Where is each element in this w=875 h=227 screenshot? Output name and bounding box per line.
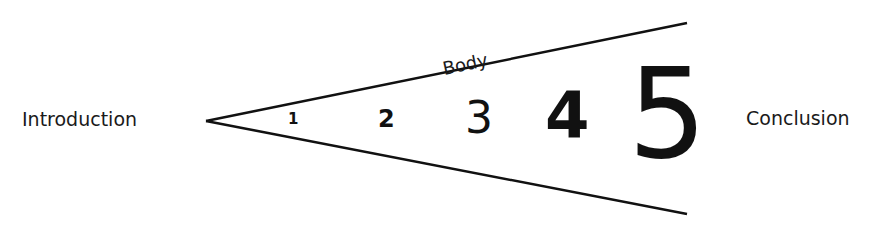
introduction-label: Introduction (22, 108, 137, 130)
step-number-5: 5 (628, 52, 707, 176)
conclusion-label: Conclusion (746, 107, 850, 129)
step-number-1: 1 (288, 112, 298, 127)
step-number-3: 3 (465, 96, 493, 140)
step-number-2: 2 (378, 107, 395, 131)
step-number-4: 4 (545, 84, 590, 148)
wedge-bottom-line (206, 121, 687, 214)
